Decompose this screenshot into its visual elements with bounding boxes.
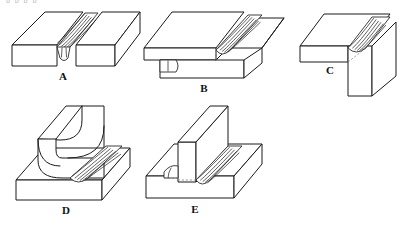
joint-e-diagram: E — [146, 106, 262, 215]
joint-a-right-front-face — [76, 45, 115, 66]
joint-b-diagram: B — [144, 12, 284, 94]
joint-e-label: E — [191, 203, 198, 215]
joint-d-base-front-face — [16, 180, 102, 200]
joint-b-upper-front-face — [144, 48, 216, 60]
joint-d-diagram: D — [16, 106, 130, 216]
joint-e-upright-front-face — [178, 142, 196, 182]
joint-b-label: B — [200, 82, 208, 94]
joint-b-lower-side-face — [244, 48, 262, 78]
joint-a-left-front-face — [12, 45, 57, 66]
joint-c-front-face — [300, 46, 348, 62]
joint-a-root-penetration — [57, 47, 70, 61]
joint-d-label: D — [62, 204, 70, 216]
joint-c-label: C — [326, 64, 334, 76]
joint-b-fillet-end — [160, 60, 178, 72]
joint-c-vertical-front-face — [348, 46, 372, 96]
joint-a-diagram: A — [12, 12, 140, 82]
joint-a-label: A — [59, 70, 67, 82]
joint-d-curved-top-face — [38, 106, 82, 140]
welding-joints-figure: A B — [0, 0, 416, 225]
joint-c-diagram: C — [300, 14, 396, 96]
